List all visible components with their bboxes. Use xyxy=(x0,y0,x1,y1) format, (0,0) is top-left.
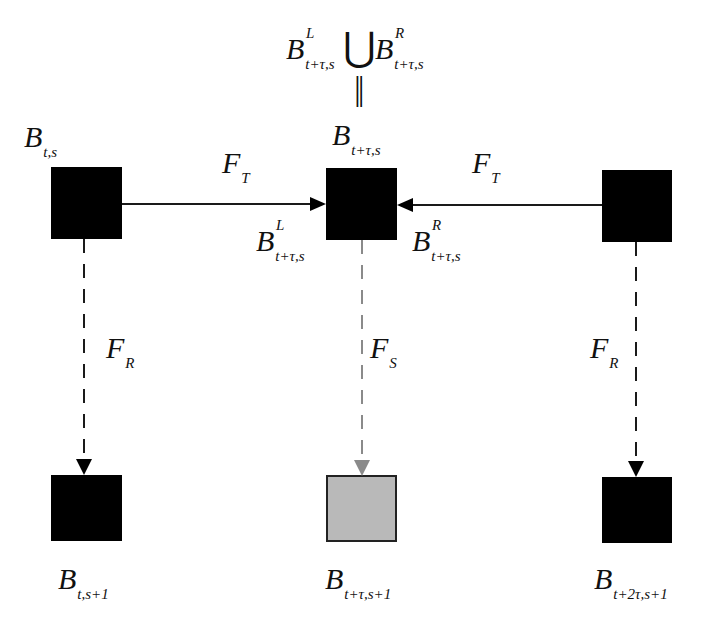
node-b-t-tau-s xyxy=(326,168,397,240)
edge-fr-right xyxy=(628,242,644,477)
label-fs-center: FS xyxy=(370,333,397,363)
label-b-t-s: Bt,s xyxy=(24,122,57,152)
label-b-t-s1: Bt,s+1 xyxy=(58,564,109,594)
node-b-t-s1 xyxy=(51,475,122,541)
edge-ft-right xyxy=(397,198,602,212)
diagram-canvas xyxy=(0,0,703,621)
node-b-t-s xyxy=(51,167,122,239)
node-top-right xyxy=(602,170,672,242)
formula-left-term: BLt+τ,s xyxy=(286,34,335,64)
label-right-port: BRt+τ,s xyxy=(412,226,461,256)
label-b-t-2tau-s1: Bt+2τ,s+1 xyxy=(594,564,668,594)
label-ft-left: FT xyxy=(222,148,250,178)
label-b-t-tau-s1: Bt+τ,s+1 xyxy=(325,564,391,594)
edge-fr-left xyxy=(76,239,92,475)
node-b-t-2tau-s1 xyxy=(602,477,672,543)
label-fr-right: FR xyxy=(590,333,619,363)
edge-fs-center xyxy=(354,240,370,476)
label-ft-right: FT xyxy=(472,148,500,178)
equals-vertical-symbol: || xyxy=(354,72,362,106)
formula-right-term: BRt+τ,s xyxy=(375,34,424,64)
label-left-port: BLt+τ,s xyxy=(256,226,305,256)
label-fr-left: FR xyxy=(106,333,135,363)
node-b-t-tau-s1 xyxy=(327,476,396,541)
union-symbol: ⋃ xyxy=(343,28,376,68)
label-b-t-tau-s: Bt+τ,s xyxy=(332,120,381,150)
edge-ft-left xyxy=(122,197,326,211)
